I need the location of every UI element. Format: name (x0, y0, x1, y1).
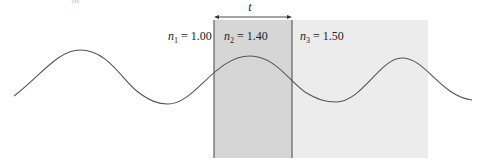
arrowhead-left-icon (214, 15, 219, 19)
arrowhead-right-icon (287, 15, 292, 19)
label-n1: n1= 1.00 (168, 29, 212, 45)
thin-film-diagram: t n1= 1.00 n2= 1.40 n3= 1.50 (0, 0, 484, 168)
thickness-arrow (214, 15, 292, 19)
thickness-label: t (248, 0, 252, 14)
